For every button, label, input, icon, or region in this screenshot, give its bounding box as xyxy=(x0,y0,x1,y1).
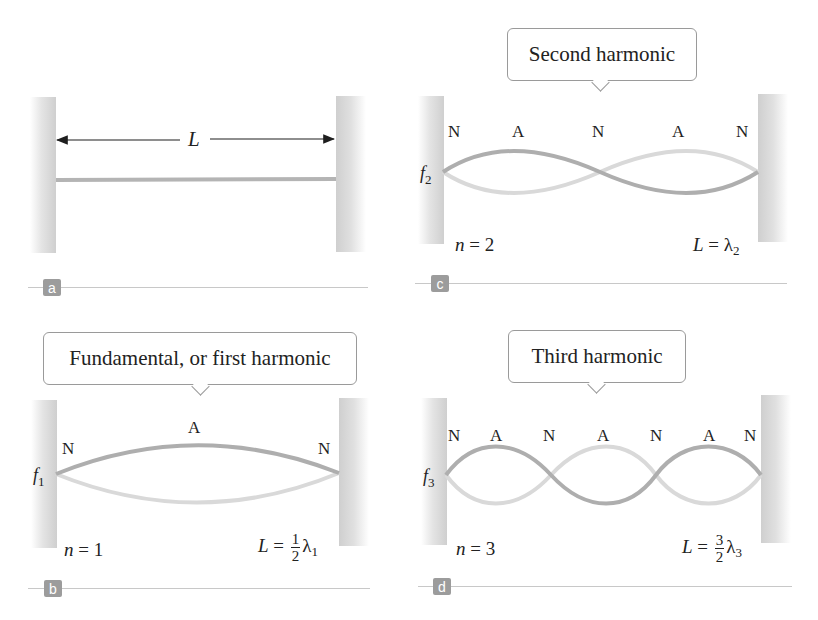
harmonic-number: n = 1 xyxy=(64,539,103,561)
strings-overlay xyxy=(0,0,818,620)
callout-text: Fundamental, or first harmonic xyxy=(69,346,330,371)
panel-b-wave-light xyxy=(56,473,339,502)
node-label: N xyxy=(62,439,74,459)
antinode-label: A xyxy=(188,418,200,438)
panel-a-string xyxy=(56,179,336,180)
length-equation: L = λ2 xyxy=(693,234,740,259)
node-label: N xyxy=(448,122,460,142)
frequency-label: f2 xyxy=(420,163,432,188)
panel-b-badge: b xyxy=(44,580,62,597)
callout-text: Third harmonic xyxy=(531,344,662,369)
callout-second-harmonic: Second harmonic xyxy=(507,28,697,81)
antinode-label: A xyxy=(703,426,715,446)
frequency-label: f3 xyxy=(423,466,435,491)
fraction: 32 xyxy=(715,532,725,565)
antinode-label: A xyxy=(490,426,502,446)
frequency-label: f1 xyxy=(33,465,45,490)
panel-c-badge: c xyxy=(431,275,449,292)
panel-d-rule xyxy=(418,586,792,587)
fraction: 12 xyxy=(291,531,301,564)
panel-b-wave-dark xyxy=(56,445,339,474)
node-label: N xyxy=(744,426,756,446)
node-label: N xyxy=(736,122,748,142)
length-label: L xyxy=(188,127,200,152)
callout-text: Second harmonic xyxy=(529,42,675,67)
panel-d-wave-dark xyxy=(446,447,761,504)
harmonic-number: n = 3 xyxy=(456,538,495,560)
node-label: N xyxy=(318,439,330,459)
panel-d-wave-light xyxy=(446,447,761,504)
panel-b-rule xyxy=(28,588,370,589)
node-label: N xyxy=(448,426,460,446)
antinode-label: A xyxy=(512,122,524,142)
harmonic-number: n = 2 xyxy=(455,234,494,256)
length-equation: L = 12λ1 xyxy=(258,531,318,564)
panel-a-badge: a xyxy=(43,279,61,296)
antinode-label: A xyxy=(672,122,684,142)
panel-a-rule xyxy=(28,287,368,288)
node-label: N xyxy=(650,426,662,446)
panel-c-rule xyxy=(415,283,787,284)
antinode-label: A xyxy=(597,426,609,446)
length-equation: L = 32λ3 xyxy=(682,532,742,565)
node-label: N xyxy=(543,426,555,446)
panel-d-badge: d xyxy=(433,578,451,595)
node-label: N xyxy=(592,122,604,142)
panel-c-wave-dark xyxy=(443,151,758,193)
